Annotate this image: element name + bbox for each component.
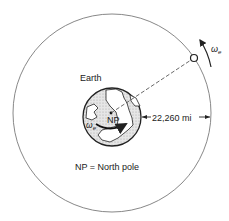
satellite-rotation-arrow <box>200 40 211 67</box>
radius-dashed-line <box>111 60 191 113</box>
legend-text: NP = North pole <box>75 162 139 172</box>
satellite <box>191 55 198 62</box>
distance-label: 22,260 mi <box>152 113 192 123</box>
distance-dimension: 22,260 mi <box>142 113 210 123</box>
north-pole-label: NP <box>107 115 120 125</box>
omega-satellite-label: ωe <box>211 44 222 55</box>
earth-label: Earth <box>80 73 102 83</box>
geostationary-orbit-diagram: ωe ωe NP Earth 22,260 mi NP = North pole <box>0 0 229 221</box>
